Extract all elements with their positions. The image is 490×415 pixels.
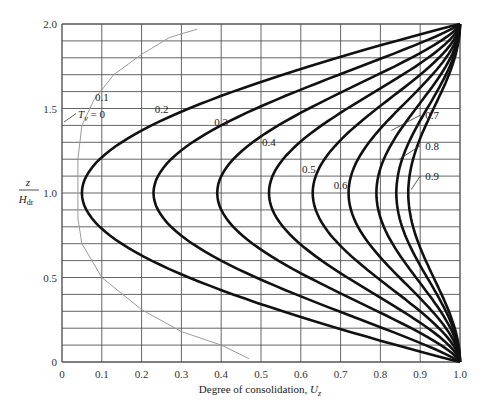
label-tv-0.4: 0.4 (262, 136, 276, 148)
label-tv-0.9: 0.9 (425, 170, 439, 182)
x-tick-label: 0.2 (135, 368, 149, 380)
y-tick-label: 2.0 (43, 18, 57, 30)
y-axis-label: z Hdr (18, 176, 39, 207)
svg-text:Hdr: Hdr (18, 193, 34, 207)
curve-labels: Tv = 00.10.20.30.40.50.60.70.80.9 (64, 91, 440, 191)
x-tick-label: 0.4 (214, 368, 228, 380)
x-tick-label: 0.5 (254, 368, 268, 380)
y-tick-label: 0.5 (43, 272, 57, 284)
x-tick-label: 0.3 (175, 368, 189, 380)
label-tv-0.6: 0.6 (334, 179, 348, 191)
x-tick-label: 0.7 (334, 368, 348, 380)
consolidation-chart: Tv = 00.10.20.30.40.50.60.70.80.9 00.10.… (0, 0, 490, 415)
label-tv-0.8: 0.8 (425, 140, 439, 152)
label-tv-0.3: 0.3 (214, 116, 228, 128)
label-tv-0.1: 0.1 (95, 91, 109, 103)
label-tv-0.2: 0.2 (155, 103, 169, 115)
x-tick-label: 0.6 (294, 368, 308, 380)
x-tick-label: 0.1 (95, 368, 109, 380)
curve-tv-0 (78, 29, 249, 359)
x-tick-label: 0.8 (374, 368, 388, 380)
x-tick-label: 0.9 (413, 368, 427, 380)
x-axis-label: Degree of consolidation, Uz (199, 383, 322, 398)
label-tv-0.5: 0.5 (302, 163, 316, 175)
y-tick-label: 1.0 (43, 187, 57, 199)
svg-text:z: z (25, 176, 31, 188)
x-tick-label: 0 (59, 368, 65, 380)
y-tick-label: 1.5 (43, 103, 57, 115)
y-tick-label: 0 (52, 356, 58, 368)
label-tv-0.7: 0.7 (425, 109, 439, 121)
x-tick-label: 1.0 (453, 368, 467, 380)
label-tv-0: Tv = 0 (78, 108, 105, 123)
